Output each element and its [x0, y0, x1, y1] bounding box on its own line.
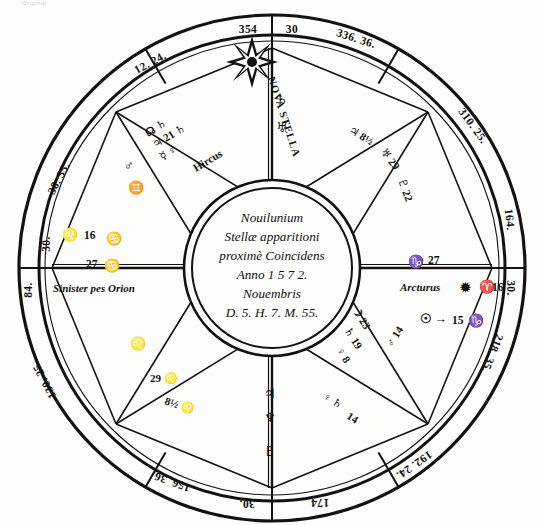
nova-star-core — [247, 57, 257, 67]
ray-ll-to-bottom — [116, 424, 272, 488]
ring-label-38-35: 38. 35. — [45, 160, 72, 196]
sun-sign-glyph: ♑ — [468, 313, 484, 328]
leo-glyph-left: ♌ — [62, 227, 78, 242]
horoscope-figure: Nouilunium Stellæ apparitioni proximè Co… — [0, 0, 541, 525]
bottom-cluster-row-2: 14 — [345, 410, 361, 426]
ray-ur-to-top — [272, 48, 428, 112]
planet-cluster-upper-right: ♃ 8½ ♅ 29 ♇ 22 — [347, 123, 416, 203]
center-line-3: proximè Coincidens — [218, 248, 324, 263]
ll-cluster-row-3: 8½ ♌ — [163, 394, 196, 416]
center-line-5: Nouembris — [242, 286, 301, 301]
chart-page: Original — [0, 0, 541, 525]
ring-label-30-bottom: 30. — [239, 498, 255, 510]
leo-degree-left: 16 — [84, 229, 96, 241]
orion-block: ♌ 16 ♋ 27 ♋ Sinister pes Orion — [53, 227, 135, 294]
ul-gemini-glyph: ♊ — [128, 180, 144, 195]
glyph-spoke-top-2: ♅ — [276, 120, 288, 135]
cancer-glyph-lower: ♋ — [104, 258, 120, 273]
center-line-6: D. 5. H. 7. M. 55. — [225, 305, 319, 320]
ll-cluster-row-2: 29 ♌ — [150, 372, 178, 385]
nova-stella-group: NOVA STELLA — [226, 36, 303, 159]
sun-degree: 15 — [452, 314, 464, 326]
bottom-cluster-row-1: ♀ ♄ — [321, 390, 345, 411]
center-line-2: Stellæ apparitioni — [225, 229, 320, 244]
ring-label-30-left: 30. — [40, 236, 52, 252]
planet-cluster-upper-left: ☊ ♄ ♃ 21 ♄ ☿ ♀ Hircus ♂ ♊ — [124, 109, 225, 195]
ring-label-84: 84. — [22, 282, 34, 298]
ring-label-30-right: 30. — [505, 280, 517, 296]
lr-cluster-row-4: ♂ 14 — [384, 324, 406, 349]
ring-label-174: 174 — [311, 497, 329, 509]
glyph-spoke-bottom-3: ♇ — [264, 444, 276, 459]
arcturus-sign-degree: 16 — [492, 281, 504, 293]
orion-cusp-degree: 27 — [86, 258, 98, 270]
arcturus-label: Arcturus — [399, 281, 440, 293]
ring-label-218-35: 218. 35. — [480, 332, 506, 374]
center-line-4: Anno 1 5 7 2. — [236, 267, 308, 282]
arcturus-cusp-degree: 27 — [428, 254, 440, 266]
ul-mars-glyph: ♂ — [124, 158, 134, 173]
arcturus-cusp-glyph: ♑ — [408, 254, 424, 269]
glyph-spoke-top-1: ♄ — [276, 92, 288, 107]
sun-glyph: ☉ — [420, 311, 432, 326]
ring-label-130-25: 130. 25. — [29, 359, 59, 400]
cusp-tick-lr — [379, 453, 399, 488]
ring-label-30-top: 30 — [286, 23, 298, 35]
lr-cluster-row-3: ♀ 8 — [334, 345, 353, 366]
cusp-tick-ur — [379, 49, 399, 84]
ll-cluster-row-1: ♌ — [130, 336, 146, 351]
sun-arrow: → — [434, 311, 447, 326]
center-line-1: Nouilunium — [240, 210, 303, 225]
glyph-spoke-bottom-1: ♃ — [264, 386, 276, 401]
orion-label: Sinister pes Orion — [53, 282, 135, 294]
cancer-glyph-upper: ♋ — [106, 231, 122, 246]
arcturus-star-icon: ✹ — [459, 280, 472, 295]
ur-cluster-row-2: ♅ 29 — [378, 146, 402, 172]
planet-cluster-bottom: ♀ ♄ 14 — [321, 390, 361, 426]
ring-label-354: 354 — [239, 23, 257, 35]
ring-label-310-25: 310. 25. — [456, 106, 490, 146]
ring-label-156-36: 156. 36. — [150, 469, 192, 494]
ring-label-164: 164. — [503, 208, 517, 231]
ur-cluster-row-1: ♃ 8½ — [347, 123, 376, 147]
glyph-spoke-bottom-2: ♆ — [264, 410, 276, 425]
ur-cluster-row-3: ♇ 22 — [396, 177, 416, 204]
hircus-label: Hircus — [191, 147, 225, 174]
